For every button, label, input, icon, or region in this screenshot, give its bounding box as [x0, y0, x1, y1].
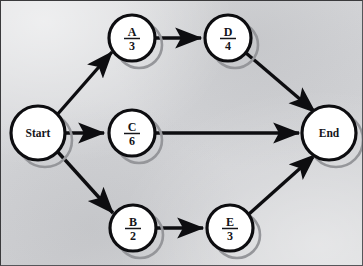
node-d-duration: 4 [225, 39, 231, 53]
node-d[interactable]: D 4 [205, 15, 251, 61]
node-d-label: D [224, 25, 233, 39]
node-b[interactable]: B 2 [110, 205, 156, 251]
node-start[interactable]: Start [11, 106, 65, 160]
node-end[interactable]: End [302, 106, 356, 160]
node-c[interactable]: C 6 [109, 110, 155, 156]
node-c-duration: 6 [129, 134, 135, 148]
diagram-canvas: Start A 3 D 4 C 6 [0, 0, 363, 266]
node-a-duration: 3 [129, 39, 135, 53]
node-end-label: End [319, 127, 340, 139]
edge-start-a [56, 52, 112, 116]
network-graph: Start A 3 D 4 C 6 [0, 0, 363, 266]
node-start-label: Start [26, 127, 51, 139]
node-e-duration: 3 [227, 229, 233, 243]
edge-d-end [246, 53, 315, 112]
node-b-duration: 2 [130, 229, 136, 243]
node-a-label: A [128, 25, 137, 39]
node-c-label: C [128, 120, 137, 134]
edge-start-b [57, 151, 113, 213]
edge-e-end [249, 155, 315, 214]
node-b-label: B [129, 215, 137, 229]
node-e-label: E [226, 215, 234, 229]
node-e[interactable]: E 3 [207, 205, 253, 251]
node-a[interactable]: A 3 [109, 15, 155, 61]
